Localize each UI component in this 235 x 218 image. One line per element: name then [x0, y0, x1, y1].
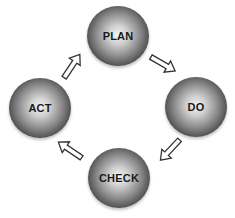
- node-check: CHECK: [88, 148, 150, 208]
- node-plan-label: PLAN: [103, 30, 134, 42]
- arrow-plan-to-do-icon: [148, 51, 179, 76]
- arrow-check-to-act-icon: [55, 137, 85, 163]
- node-act: ACT: [9, 78, 71, 138]
- arrow-act-to-plan-icon: [59, 51, 85, 81]
- arrow-do-to-check-icon: [156, 135, 185, 164]
- pdca-cycle-diagram: PLAN DO CHECK ACT: [0, 0, 235, 218]
- node-do: DO: [165, 77, 227, 137]
- node-act-label: ACT: [28, 102, 51, 114]
- node-check-label: CHECK: [99, 172, 139, 184]
- node-do-label: DO: [188, 101, 205, 113]
- node-plan: PLAN: [87, 6, 149, 66]
